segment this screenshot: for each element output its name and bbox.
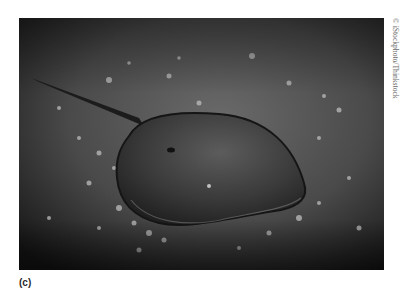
figure-label: (c) [19,277,31,288]
photo-credit-text: © iStockphoto/Thinkstock [391,18,400,99]
photo-credit: © iStockphoto/Thinkstock [387,18,401,118]
figure-photo [19,18,384,270]
horseshoe-crab-photo [19,18,384,270]
